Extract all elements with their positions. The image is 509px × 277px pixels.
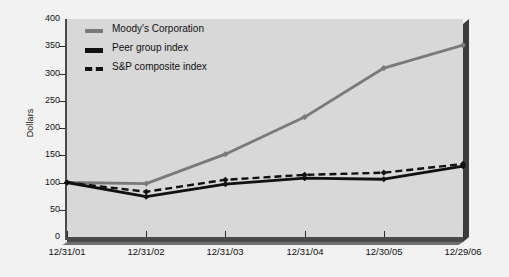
x-axis-tick-label: 12/29/06 bbox=[426, 246, 500, 257]
y-axis-tick-label: 300 bbox=[20, 69, 60, 79]
x-axis-shadow bbox=[63, 242, 463, 245]
legend-swatch-sp-composite-icon bbox=[85, 67, 103, 71]
y-axis-tick-label: 150 bbox=[20, 150, 60, 160]
y-axis-tick-mark bbox=[59, 210, 65, 211]
y-axis-tick-label: 350 bbox=[20, 41, 60, 51]
y-axis-tick-mark bbox=[59, 155, 65, 156]
x-axis-tick-label: 12/31/02 bbox=[109, 246, 183, 257]
chart-container: Dollars 400350300250200150100500 12/31/0… bbox=[0, 0, 509, 277]
y-axis-tick-mark bbox=[59, 183, 65, 184]
x-axis-tick-mark bbox=[225, 231, 226, 237]
x-axis-tick-label: 12/31/03 bbox=[188, 246, 262, 257]
x-axis-tick-mark bbox=[384, 231, 385, 237]
y-axis-tick-value: 100 bbox=[20, 178, 60, 187]
legend-swatch-moodys-icon bbox=[85, 29, 103, 33]
y-axis-tick-value: 150 bbox=[20, 150, 60, 159]
x-axis-tick-label: 12/31/01 bbox=[30, 246, 104, 257]
y-axis-tick-value: 400 bbox=[20, 14, 60, 23]
y-axis-tick-value: 200 bbox=[20, 123, 60, 132]
x-axis-tick-mark bbox=[146, 231, 147, 237]
legend-label-sp-composite: S&P composite index bbox=[112, 61, 207, 72]
y-axis-tick-mark bbox=[59, 74, 65, 75]
y-axis-tick-label: 50 bbox=[20, 205, 60, 215]
y-axis-tick-label: 200 bbox=[20, 123, 60, 133]
y-axis-tick-mark bbox=[59, 46, 65, 47]
y-axis-tick-label: 100 bbox=[20, 178, 60, 188]
y-axis-tick-mark bbox=[59, 101, 65, 102]
x-axis-tick-mark bbox=[463, 231, 464, 237]
y-axis-line bbox=[65, 19, 67, 240]
x-axis-tick-label: 12/30/05 bbox=[347, 246, 421, 257]
plot-right-shadow bbox=[463, 19, 469, 242]
legend-label-peer-group: Peer group index bbox=[112, 42, 188, 53]
y-axis-tick-value: 250 bbox=[20, 96, 60, 105]
y-axis-tick-value: 50 bbox=[20, 205, 60, 214]
legend-label-moodys: Moody's Corporation bbox=[112, 23, 204, 34]
x-axis-tick-mark bbox=[67, 231, 68, 237]
y-axis-tick-label: 400 bbox=[20, 14, 60, 24]
y-axis-tick-label: 250 bbox=[20, 96, 60, 106]
x-axis-tick-label: 12/31/04 bbox=[268, 246, 342, 257]
legend-swatch-peer-group-icon bbox=[85, 48, 103, 53]
y-axis-tick-label: 0 bbox=[20, 232, 60, 242]
y-axis-tick-value: 0 bbox=[20, 232, 60, 241]
x-axis-tick-mark bbox=[305, 231, 306, 237]
y-axis-tick-value: 300 bbox=[20, 69, 60, 78]
y-axis-tick-value: 350 bbox=[20, 41, 60, 50]
y-axis-tick-mark bbox=[59, 128, 65, 129]
